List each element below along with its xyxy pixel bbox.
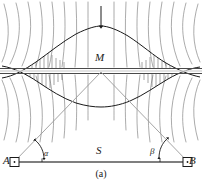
baseline-length-label: S: [96, 145, 102, 156]
figure-drawing: [0, 0, 202, 185]
angle-beta-arc: [159, 138, 168, 158]
figure-caption: (a): [0, 168, 202, 179]
station-b-label: B: [189, 155, 196, 166]
angle-alpha-label: α: [44, 150, 48, 158]
interface-band: [0, 69, 202, 74]
angle-beta-label: β: [150, 147, 154, 156]
station-a-marker: [10, 158, 19, 167]
station-a-label: A: [3, 155, 10, 166]
angle-alpha-arc: [35, 140, 44, 159]
mass-label: M: [95, 52, 104, 63]
figure-container: M S A B α β (a): [0, 0, 202, 185]
